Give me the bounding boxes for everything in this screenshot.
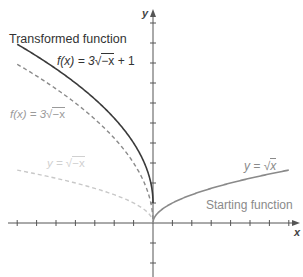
sqrt-function-label: y = √x xyxy=(244,160,276,172)
stretched-function-label: f(x) = 3√−x xyxy=(10,109,65,121)
curve-3-sqrt-x-1 xyxy=(17,44,153,203)
shift-radicand: −x xyxy=(101,53,114,68)
sqrt-radicand: x xyxy=(270,158,276,173)
reflect-radicand: −x xyxy=(72,156,84,169)
chart: Transformed function f(x) = 3√−x + 1 f(x… xyxy=(0,0,303,277)
y-axis-label: y xyxy=(142,8,148,19)
transformed-function-label: Transformed function xyxy=(9,33,127,46)
curve-sqrt-x- xyxy=(17,170,153,223)
starting-function-label: Starting function xyxy=(206,199,293,211)
shift-suffix: + 1 xyxy=(114,54,134,68)
reflected-function-label: y = √−x xyxy=(47,158,85,170)
x-axis-label: x xyxy=(294,227,300,238)
shift-prefix: f(x) = 3 xyxy=(57,54,95,68)
stretch-radicand: −x xyxy=(52,107,64,120)
curve-sqrt-x- xyxy=(153,170,289,223)
sqrt-prefix: y = xyxy=(244,159,264,173)
shifted-function-label: f(x) = 3√−x + 1 xyxy=(57,55,135,67)
y-axis-arrow-icon xyxy=(150,9,156,17)
axes xyxy=(8,9,300,277)
reflect-prefix: y = xyxy=(47,157,66,169)
stretch-prefix: f(x) = 3 xyxy=(10,108,46,120)
curve-3-sqrt-x- xyxy=(17,64,153,223)
